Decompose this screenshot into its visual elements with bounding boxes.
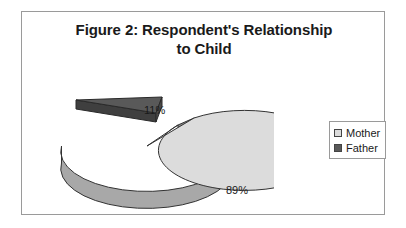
chart-title-line-1: Figure 2: Respondent's Relationship (52, 20, 356, 39)
screenshot-canvas: Figure 2: Respondent's Relationship to C… (0, 0, 406, 228)
legend-item-father[interactable]: Father (334, 140, 380, 155)
legend-swatch-father-icon (334, 144, 342, 152)
legend-swatch-mother-icon (334, 129, 342, 137)
legend-label-father: Father (346, 142, 378, 154)
pie-chart-plot-area: 11% 89% (44, 74, 274, 214)
legend-item-mother[interactable]: Mother (334, 125, 380, 140)
legend-label-mother: Mother (346, 127, 380, 139)
chart-legend: Mother Father (329, 121, 386, 159)
data-label-mother: 89% (226, 184, 248, 196)
figure-frame: Figure 2: Respondent's Relationship to C… (21, 11, 385, 215)
chart-title-line-2: to Child (52, 39, 356, 58)
data-label-father: 11% (144, 104, 165, 116)
pie-slice-mother-top (147, 110, 274, 190)
page-title: Figure 2: Respondent's Relationship to C… (52, 20, 356, 58)
